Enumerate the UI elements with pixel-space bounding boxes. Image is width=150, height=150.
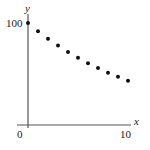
y-axis-label: y — [24, 2, 30, 14]
data-point — [116, 75, 120, 79]
y-tick-label-100: 100 — [6, 17, 23, 29]
x-tick-label-10: 10 — [120, 128, 132, 140]
x-tick-label-0: 0 — [17, 128, 23, 140]
data-point — [26, 21, 30, 25]
data-point — [106, 71, 110, 75]
data-point — [56, 44, 60, 48]
scatter-chart: x y 0 10 100 — [0, 0, 150, 150]
data-point — [126, 79, 130, 83]
data-point — [46, 37, 50, 41]
data-point — [36, 29, 40, 33]
data-points — [26, 21, 130, 83]
data-point — [86, 61, 90, 65]
x-axis-label: x — [133, 115, 139, 127]
data-point — [96, 66, 100, 70]
data-point — [66, 50, 70, 54]
data-point — [76, 56, 80, 60]
